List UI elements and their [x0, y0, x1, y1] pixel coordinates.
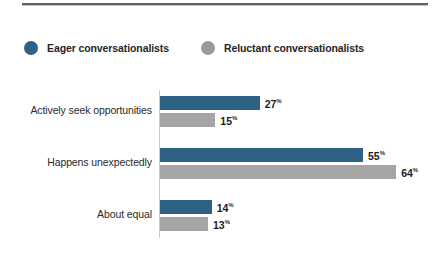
bar-0-reluctant[interactable] [160, 113, 215, 127]
top-divider-rule-shadow [22, 5, 428, 6]
legend-label-eager: Eager conversationalists [47, 42, 169, 54]
bar-group-actively-seek-opportunities: Actively seek opportunities 27% 15% [0, 92, 435, 132]
circle-marker-gray-icon [201, 41, 215, 55]
bar-value-1-reluctant: 64% [401, 167, 418, 178]
category-label-0: Actively seek opportunities [0, 104, 152, 116]
percent-symbol: % [276, 98, 281, 104]
bar-1-eager[interactable] [160, 148, 363, 162]
bar-row-2-eager[interactable]: 14% [160, 200, 234, 214]
bar-value-0-eager: 27% [265, 98, 282, 109]
category-label-2: About equal [0, 208, 152, 220]
bar-group-about-equal: About equal 14% 13% [0, 196, 435, 236]
legend-item-eager-conversationalists[interactable]: Eager conversationalists [24, 41, 169, 55]
bar-2-reluctant[interactable] [160, 217, 208, 231]
bar-row-0-eager[interactable]: 27% [160, 96, 282, 110]
legend-label-reluctant: Reluctant conversationalists [224, 42, 364, 54]
bar-group-happens-unexpectedly: Happens unexpectedly 55% 64% [0, 144, 435, 184]
bar-value-2-reluctant: 13% [213, 219, 230, 230]
percent-symbol: % [380, 150, 385, 156]
chart-legend: Eager conversationalists Reluctant conve… [24, 41, 364, 55]
bar-2-eager[interactable] [160, 200, 212, 214]
percent-symbol: % [232, 115, 237, 121]
bar-value-2-eager: 14% [217, 202, 234, 213]
bar-value-1-eager: 55% [368, 150, 385, 161]
percent-symbol: % [228, 202, 233, 208]
bar-row-1-eager[interactable]: 55% [160, 148, 385, 162]
chart-container: Eager conversationalists Reluctant conve… [0, 0, 435, 253]
circle-marker-blue-icon [24, 41, 38, 55]
legend-item-reluctant-conversationalists[interactable]: Reluctant conversationalists [201, 41, 364, 55]
bar-row-2-reluctant[interactable]: 13% [160, 217, 230, 231]
category-label-1: Happens unexpectedly [0, 156, 152, 168]
bar-value-0-reluctant: 15% [220, 115, 237, 126]
bar-row-0-reluctant[interactable]: 15% [160, 113, 237, 127]
percent-symbol: % [413, 167, 418, 173]
plot-area: Actively seek opportunities 27% 15% Happ… [0, 88, 435, 243]
bar-0-eager[interactable] [160, 96, 260, 110]
bar-row-1-reluctant[interactable]: 64% [160, 165, 418, 179]
bar-1-reluctant[interactable] [160, 165, 396, 179]
percent-symbol: % [225, 219, 230, 225]
